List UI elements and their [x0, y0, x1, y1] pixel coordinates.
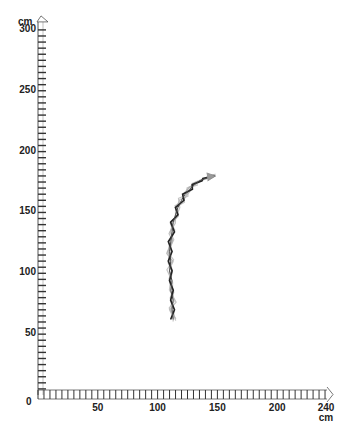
- y-tick-label: 250: [4, 85, 36, 95]
- chart: cm50100150200250300050100150200240cm: [0, 0, 347, 433]
- track-strand: [168, 175, 214, 318]
- x-axis-arrow-icon: [327, 387, 333, 402]
- x-tick-label: 100: [143, 403, 173, 413]
- track-center: [170, 176, 213, 320]
- x-tick-label: 50: [83, 403, 113, 413]
- y-axis-arrow-icon: [37, 16, 48, 22]
- x-tick-label: 150: [202, 403, 232, 413]
- y-tick-label: 50: [4, 328, 36, 338]
- y-tick-label: 100: [4, 267, 36, 277]
- y-tick-label: 200: [4, 146, 36, 156]
- x-tick-label: 200: [262, 403, 292, 413]
- origin-label: 0: [26, 397, 32, 407]
- track-line: [168, 176, 215, 320]
- track-strand: [168, 174, 216, 319]
- y-tick-label: 150: [4, 206, 36, 216]
- y-tick-label: 300: [4, 24, 36, 34]
- x-axis-unit-label: cm: [311, 413, 341, 423]
- plot-area: [0, 0, 347, 433]
